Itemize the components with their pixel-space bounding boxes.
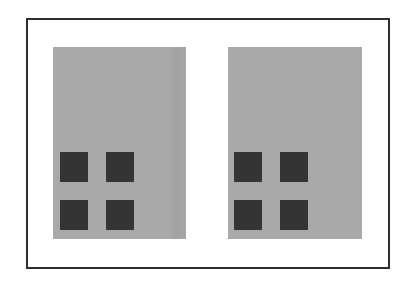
right-panel-square-r1c1 [234, 152, 262, 182]
left-panel-square-r2c2 [106, 200, 134, 230]
right-panel-square-r2c2 [280, 200, 308, 230]
left-panel-caption [53, 242, 186, 254]
right-panel-square-r2c1 [234, 200, 262, 230]
right-panel [228, 47, 362, 239]
left-panel [53, 47, 186, 239]
left-panel-square-r1c2 [106, 152, 134, 182]
right-panel-caption [228, 242, 362, 254]
left-panel-square-r2c1 [60, 200, 88, 230]
right-panel-square-r1c2 [280, 152, 308, 182]
left-panel-square-r1c1 [60, 152, 88, 182]
